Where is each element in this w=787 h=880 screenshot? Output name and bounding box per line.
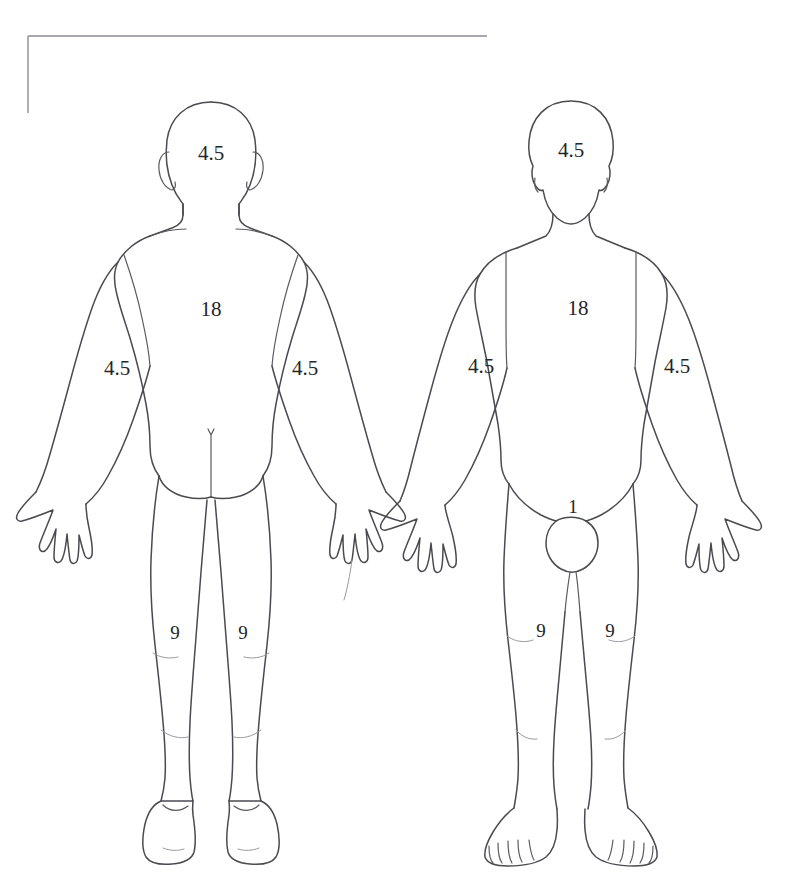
- label-posterior-left-leg: 9: [238, 622, 248, 643]
- label-anterior-left-leg: 9: [605, 620, 615, 641]
- anterior-right-foot-outline: [585, 808, 658, 866]
- posterior-left-arm-inner: [86, 366, 150, 504]
- anterior-right-hand-outline: [686, 501, 762, 573]
- figure-anterior-front-view: 4.5 18 4.5 4.5 1 9 9: [381, 101, 762, 866]
- label-anterior-right-arm: 4.5: [468, 354, 494, 378]
- label-posterior-left-arm: 4.5: [292, 356, 318, 380]
- posterior-left-achilles-arc: [163, 805, 188, 810]
- posterior-right-buttock: [211, 476, 263, 499]
- posterior-left-hand-outline: [17, 492, 93, 564]
- posterior-right-sole-hint: [238, 848, 259, 850]
- anterior-midline-below-genitals: [565, 572, 580, 612]
- posterior-left-ear-icon: [159, 152, 176, 190]
- anterior-left-foot-outline: [485, 808, 558, 866]
- label-posterior-head: 4.5: [198, 141, 224, 165]
- anterior-right-leg-outline: [624, 484, 639, 808]
- posterior-right-arm-inner: [272, 366, 336, 504]
- anterior-left-inguinal-crease: [509, 484, 556, 521]
- posterior-gluteal-cleft: [208, 429, 214, 497]
- partial-border-rule: [28, 36, 487, 113]
- posterior-right-leg-inner: [215, 500, 233, 801]
- anterior-right-ear-hint-icon: [604, 178, 607, 192]
- label-anterior-right-leg: 9: [536, 620, 546, 641]
- label-anterior-genitals: 1: [568, 496, 578, 517]
- posterior-left-leg-inner: [189, 500, 207, 801]
- label-posterior-torso: 18: [201, 297, 222, 321]
- anterior-left-toes-icon: [489, 840, 534, 863]
- posterior-right-achilles-arc: [234, 805, 259, 810]
- anterior-left-hand-outline: [381, 501, 457, 573]
- anterior-neck-left: [517, 214, 553, 248]
- stray-pencil-mark: [344, 560, 352, 600]
- anterior-left-arm-separation: [506, 252, 507, 368]
- anterior-left-arm-outline: [400, 274, 480, 501]
- posterior-left-buttock: [159, 476, 211, 499]
- posterior-left-sole-hint: [163, 848, 184, 850]
- figure-posterior-back-view: 4.5 18 4.5 4.5 9 9: [17, 102, 406, 864]
- anterior-right-inguinal-crease: [586, 484, 633, 521]
- posterior-right-leg-outline: [257, 476, 272, 801]
- anterior-right-shin-hint: [605, 730, 626, 739]
- anterior-right-toes-icon: [608, 840, 653, 863]
- posterior-left-arm-separation: [124, 255, 150, 366]
- rule-of-nines-page: 4.5 18 4.5 4.5 9 9: [0, 0, 787, 880]
- anterior-left-knee-hint: [507, 636, 533, 642]
- label-posterior-right-arm: 4.5: [104, 356, 130, 380]
- anterior-left-leg-outline: [504, 484, 519, 808]
- label-posterior-right-leg: 9: [170, 622, 180, 643]
- posterior-right-heel-outline: [227, 801, 279, 864]
- label-anterior-head: 4.5: [558, 138, 584, 162]
- posterior-left-leg-outline: [151, 476, 166, 801]
- posterior-left-heel-outline: [143, 801, 195, 864]
- body-diagram: 4.5 18 4.5 4.5 9 9: [0, 0, 787, 880]
- posterior-left-calf-hint: [161, 730, 188, 738]
- posterior-right-arm-separation: [272, 255, 298, 366]
- label-anterior-torso: 18: [568, 296, 589, 320]
- anterior-genital-outline: [546, 517, 598, 572]
- anterior-right-arm-separation: [635, 252, 636, 368]
- posterior-right-calf-hint: [234, 730, 261, 738]
- anterior-head-outline: [529, 101, 614, 224]
- anterior-left-shin-hint: [516, 730, 537, 739]
- anterior-right-arm-outline: [662, 274, 742, 501]
- label-anterior-left-arm: 4.5: [664, 354, 690, 378]
- anterior-neck-right: [589, 214, 625, 248]
- anterior-left-ear-hint-icon: [535, 178, 538, 192]
- anterior-right-arm-inner: [635, 368, 697, 505]
- anterior-right-leg-inner: [580, 612, 592, 809]
- posterior-right-ear-icon: [247, 152, 264, 190]
- anterior-left-leg-inner: [553, 612, 565, 809]
- anterior-left-arm-inner: [445, 368, 507, 505]
